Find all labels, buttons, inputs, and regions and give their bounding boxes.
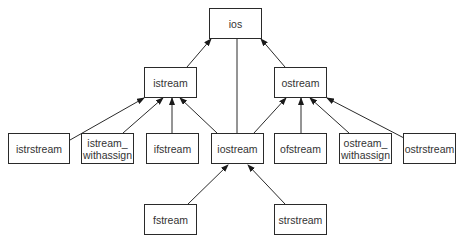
inheritance-arrow-fstream-to-iostream: [188, 165, 228, 204]
class-node-label: ostrstream: [405, 143, 455, 155]
class-node-label: istream: [153, 77, 187, 89]
class-node-ostrstream: ostrstream: [403, 133, 456, 164]
inheritance-arrow-iostream-to-istream: [180, 98, 217, 133]
inheritance-arrow-istream-to-ios: [187, 39, 211, 67]
class-node-ostream-withassign: ostream_ withassign: [339, 133, 392, 164]
class-node-label: istrstream: [16, 143, 62, 155]
inheritance-arrow-ostream_withassign-to-ostream: [310, 98, 349, 133]
class-node-ofstream: ofstream: [274, 133, 327, 164]
class-node-istream: istream: [144, 67, 197, 98]
class-node-label: fstream: [153, 214, 188, 226]
class-node-ostream: ostream: [274, 67, 327, 98]
class-node-strstream: strstream: [274, 204, 327, 235]
inheritance-arrow-strstream-to-iostream: [248, 165, 285, 204]
class-hierarchy-diagram: iosistreamostreamistrstreamistream_ with…: [0, 0, 461, 243]
class-node-istrstream: istrstream: [8, 133, 70, 164]
class-node-label: ofstream: [280, 143, 321, 155]
class-node-label: istream_ withassign: [83, 137, 132, 161]
inheritance-arrow-istream_withassign-to-istream: [123, 98, 163, 133]
class-node-istream-withassign: istream_ withassign: [81, 133, 134, 164]
class-node-ios: ios: [209, 8, 262, 39]
class-node-label: ostream: [282, 77, 320, 89]
class-node-label: iostream: [217, 143, 257, 155]
class-node-fstream: fstream: [144, 204, 197, 235]
inheritance-arrow-ostrstream-to-ostream: [327, 98, 404, 138]
inheritance-arrow-iostream-to-ostream: [254, 98, 286, 133]
class-node-iostream: iostream: [211, 133, 264, 164]
class-node-label: ostream_ withassign: [341, 137, 390, 161]
class-node-label: strstream: [279, 214, 323, 226]
inheritance-arrow-ostream-to-ios: [261, 39, 285, 67]
class-node-label: ios: [229, 18, 242, 30]
class-node-ifstream: ifstream: [146, 133, 199, 164]
class-node-label: ifstream: [154, 143, 191, 155]
